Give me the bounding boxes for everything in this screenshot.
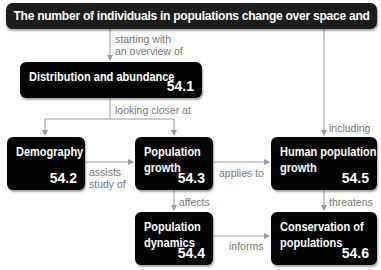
section-number: 54.4 (178, 245, 205, 261)
main-concept-title: The number of individuals in populations… (6, 3, 377, 29)
edge-label-assists: assistsstudy of (89, 166, 126, 190)
edge-label-informs: informs (229, 240, 263, 252)
edge-label-looking-closer: looking closer at (115, 104, 191, 116)
node-label: Demography (16, 144, 83, 160)
node-demography: Demography 54.2 (7, 137, 85, 190)
edge-label-threatens: threatens (329, 196, 373, 208)
edge-label-affects: affects (179, 196, 210, 208)
edge-label-including: including (329, 122, 370, 134)
node-label: Distribution and abundance (29, 69, 174, 85)
edge-label-applies-to: applies to (219, 167, 264, 179)
node-conservation: Conservation ofpopulations 54.6 (271, 212, 377, 265)
edge-label-starting: starting withan overview of (115, 33, 183, 57)
section-number: 54.6 (342, 245, 369, 261)
node-population-growth: Populationgrowth 54.3 (135, 137, 213, 190)
section-number: 54.5 (342, 170, 369, 186)
section-number: 54.3 (178, 170, 205, 186)
node-human-population-growth: Human populationgrowth 54.5 (271, 137, 377, 190)
section-number: 54.1 (167, 78, 194, 94)
node-distribution: Distribution and abundance 54.1 (20, 62, 202, 98)
section-number: 54.2 (50, 170, 77, 186)
node-population-dynamics: Populationdynamics 54.4 (135, 212, 213, 265)
